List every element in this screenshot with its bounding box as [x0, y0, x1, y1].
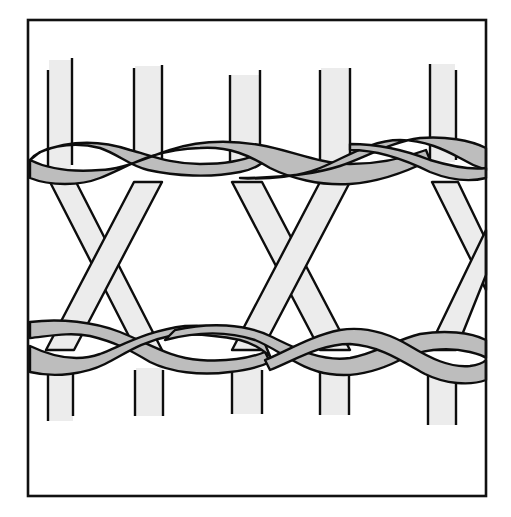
weave-diagram	[0, 0, 511, 517]
weave-svg	[0, 0, 511, 517]
